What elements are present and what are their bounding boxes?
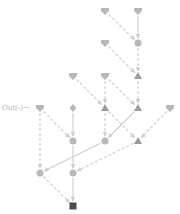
node-circle-icon xyxy=(135,40,142,47)
node-heart-icon xyxy=(134,8,142,15)
node-triangle-icon xyxy=(134,72,142,79)
node-heart-icon xyxy=(101,73,109,80)
output-label: Out(-)→ xyxy=(2,104,29,112)
node-triangle-icon xyxy=(101,104,109,111)
edge-n3a-n4a xyxy=(44,112,70,138)
node-diamond-icon xyxy=(70,104,77,112)
node-circle-icon xyxy=(70,138,77,145)
edge-n3e-n4c xyxy=(141,112,166,138)
edge-n4c-n5b xyxy=(77,143,133,171)
node-heart-icon xyxy=(69,73,77,80)
node-square-icon xyxy=(70,203,77,210)
node-triangle-icon xyxy=(134,137,142,144)
node-circle-icon xyxy=(70,170,77,177)
node-circle-icon xyxy=(102,138,109,145)
node-triangle-icon xyxy=(134,104,142,111)
edge-n0a-n1b xyxy=(109,14,135,39)
node-heart-icon xyxy=(166,105,174,112)
edge-n2b-n3d xyxy=(109,79,135,104)
node-circle-icon xyxy=(37,170,44,177)
edge-n1a-n2c xyxy=(109,47,135,73)
node-heart-icon xyxy=(101,40,109,47)
edge-n5a-n6a xyxy=(44,177,70,203)
nodes-layer xyxy=(36,8,174,210)
node-heart-icon xyxy=(36,105,44,112)
edge-n2a-n3c xyxy=(77,80,102,105)
node-heart-icon xyxy=(101,8,109,15)
